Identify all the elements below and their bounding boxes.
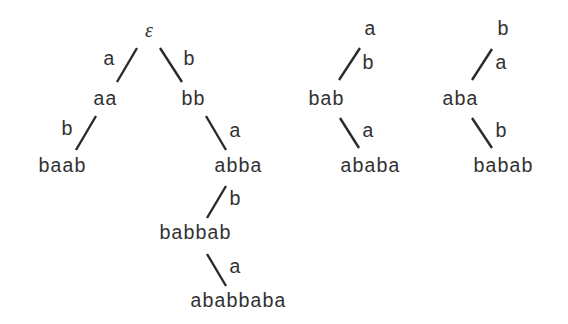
tree1-node-bb: bb	[181, 90, 205, 110]
tree2-node-ababa: ababa	[340, 157, 400, 177]
tree1-node-baab: baab	[38, 157, 86, 177]
tree2-label-a-bab: b	[362, 54, 374, 74]
tree3-label-aba-babab: b	[495, 122, 507, 142]
tree2-node-bab: bab	[308, 90, 344, 110]
tree1-label-aa-baab: b	[61, 120, 73, 140]
edge-babbab-ababbaba	[207, 254, 226, 286]
edge-bb-abba	[206, 116, 226, 150]
edge-abba-babbab	[207, 186, 226, 218]
tree3-root-node: b	[497, 20, 509, 40]
edge-aa-baab	[76, 116, 96, 150]
edge-bab-ababa	[340, 118, 359, 148]
edge-b-aba	[472, 49, 492, 80]
tree1-node-aa: aa	[93, 90, 117, 110]
tree1-label-root-aa: a	[103, 50, 115, 70]
diagram-canvas: ε aa bb baab abba babbab ababbaba a b b …	[0, 0, 568, 324]
edge-a-bab	[339, 48, 360, 80]
tree1-root-node: ε	[145, 20, 153, 40]
tree1-node-abba: abba	[214, 157, 262, 177]
tree2-root-node: a	[364, 20, 376, 40]
tree1-label-abba-babbab: b	[229, 190, 241, 210]
tree1-label-bb-abba: a	[229, 122, 241, 142]
tree1-label-babbab-ababbaba: a	[229, 258, 241, 278]
tree1-node-babbab: babbab	[159, 224, 231, 244]
tree1-node-ababbaba: ababbaba	[190, 292, 286, 312]
tree3-node-babab: babab	[473, 157, 533, 177]
tree1-label-root-bb: b	[183, 50, 195, 70]
edge-root-aa	[117, 48, 137, 82]
edge-root-bb	[160, 48, 182, 82]
tree3-label-b-aba: a	[495, 54, 507, 74]
tree2-label-bab-ababa: a	[362, 122, 374, 142]
tree3-node-aba: aba	[442, 90, 478, 110]
edge-aba-babab	[472, 118, 492, 148]
